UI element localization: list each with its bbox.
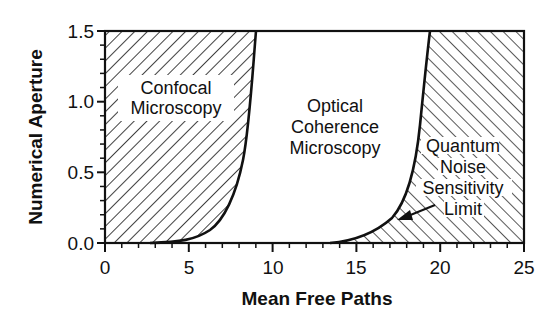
- x-tick-label: 0: [100, 257, 111, 278]
- quantum-label-line2: Noise: [440, 157, 486, 177]
- x-axis-title: Mean Free Paths: [242, 288, 393, 309]
- confocal-label-line1: Confocal: [140, 78, 211, 98]
- x-tick-label: 5: [184, 257, 195, 278]
- y-tick-label: 0.5: [68, 162, 94, 183]
- y-tick-label: 1.5: [68, 21, 94, 42]
- ocm-label-line2: Coherence: [291, 117, 379, 137]
- confocal-region: [105, 31, 256, 243]
- chart: 1.5 1.0 0.5 0.0 0 5 10 15 20 25 Mean Fre…: [0, 0, 551, 323]
- quantum-label-line1: Quantum: [426, 136, 500, 156]
- x-tick-label: 10: [262, 257, 283, 278]
- ocm-label-line3: Microscopy: [289, 138, 380, 158]
- y-tick-label: 1.0: [68, 91, 94, 112]
- ocm-label-line1: Optical: [307, 96, 363, 116]
- y-axis: [97, 31, 105, 243]
- x-tick-label: 25: [513, 257, 534, 278]
- quantum-label-line3: Sensitivity: [422, 178, 503, 198]
- quantum-label-line4: Limit: [444, 199, 482, 219]
- confocal-label-line2: Microscopy: [130, 98, 221, 118]
- x-tick-label: 20: [429, 257, 450, 278]
- x-axis: [105, 243, 524, 252]
- y-tick-label: 0.0: [68, 233, 94, 254]
- x-tick-label: 15: [345, 257, 366, 278]
- y-axis-title: Numerical Aperture: [25, 49, 46, 225]
